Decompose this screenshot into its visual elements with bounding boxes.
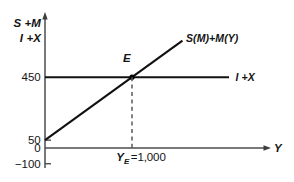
chart-canvas: 450500−100 S(M)+M(Y)I +X E S +M I +X Y Y… (0, 0, 294, 182)
series-label-investment-exports: I +X (236, 71, 256, 83)
y-axis-label-line1: S +M (13, 17, 41, 29)
y-axis-tick-label: −100 (15, 158, 41, 170)
series-label-savings-imports: S(M)+M(Y) (186, 32, 239, 44)
x-tick-subscript: E (124, 157, 130, 166)
series-line-savings-imports (45, 41, 182, 140)
equilibrium-label: E (123, 52, 131, 64)
annotation-group: E (123, 52, 135, 148)
x-tick-value: =1,000 (131, 151, 166, 163)
y-axis-arrow-icon (42, 12, 47, 20)
x-axis-label: Y (274, 142, 283, 154)
series-group: S(M)+M(Y)I +X (45, 32, 256, 140)
y-axis-tick-label: 450 (22, 71, 41, 83)
x-axis-tick-label: YE=1,000 (116, 151, 165, 166)
y-axis-tick-label: 0 (34, 142, 40, 154)
x-axis-tick-label-group: YE=1,000 (116, 151, 165, 166)
equilibrium-chart-figure: 450500−100 S(M)+M(Y)I +X E S +M I +X Y Y… (0, 0, 294, 182)
y-axis-label-line2: I +X (20, 32, 42, 44)
x-axis-arrow-icon (264, 145, 272, 150)
